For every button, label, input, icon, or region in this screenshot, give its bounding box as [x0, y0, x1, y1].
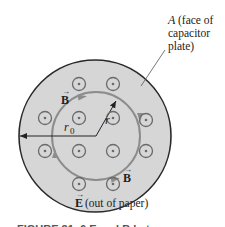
e-field-dot-center: [44, 117, 47, 120]
e-field-dot-center: [112, 83, 115, 86]
e-field-dot-center: [78, 83, 81, 86]
e-field-dot-center: [112, 183, 115, 186]
plate-label-symbol: A: [167, 13, 176, 27]
e-field-dot-center: [145, 150, 148, 153]
e-vector-bar: →: [76, 190, 84, 199]
b-vector-bar-bottom: →: [124, 165, 132, 174]
e-field-dot-center: [112, 150, 115, 153]
e-field-dot-center: [78, 117, 81, 120]
leader-line: [141, 50, 165, 86]
r0-subscript: 0: [70, 126, 75, 136]
r-label: r: [105, 113, 110, 127]
plate-label-line1: (face of: [178, 14, 214, 27]
capacitor-plate-diagram: A (face of capacitor plate) B → B → r r …: [0, 0, 225, 227]
plate-label-line3: plate): [168, 40, 194, 53]
figure-caption: FIGURE 31–6 E and B between: [17, 223, 177, 227]
b-vector-bar-top: →: [62, 87, 70, 96]
plate-label-line2: capacitor: [168, 27, 210, 40]
e-field-dot-center: [44, 150, 47, 153]
e-field-dot-center: [78, 183, 81, 186]
r0-label: r: [64, 120, 69, 134]
e-field-dot-center: [78, 150, 81, 153]
e-field-dot-center: [145, 119, 148, 122]
e-field-dot-center: [112, 117, 115, 120]
e-note: (out of paper): [85, 197, 148, 210]
